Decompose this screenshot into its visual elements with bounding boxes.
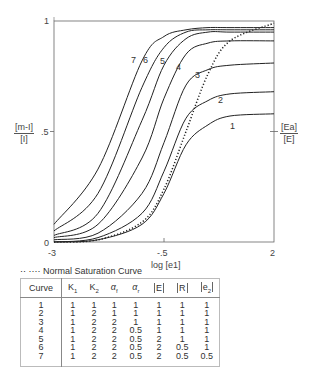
x-axis-label: log [e1] — [151, 260, 181, 270]
table-row: 71220.520.50.5 — [21, 352, 220, 367]
y-left-numerator: [m-I] — [14, 122, 34, 134]
x-tick-mid: -.5 — [157, 248, 168, 258]
curve-label: 7 — [131, 55, 136, 65]
table-cell: 0.5 — [195, 352, 220, 367]
table-cell: 0.5 — [124, 352, 149, 367]
curve-2 — [54, 92, 274, 242]
y-tick-1: 1 — [44, 16, 49, 26]
table-row: 31221111 — [21, 318, 220, 327]
y-axis-label-right: [Ea] [E] — [280, 122, 298, 145]
col-alpha-r: αr — [124, 279, 149, 298]
legend: ·· ···· Normal Saturation Curve — [20, 266, 142, 276]
plot-frame — [50, 17, 278, 242]
tick-labels: 1 .5 0 -3 -.5 2 log [e1] — [41, 16, 275, 270]
x-tick-right: 2 — [270, 248, 275, 258]
curve-label: 4 — [176, 62, 181, 72]
y-left-denominator: [I] — [20, 134, 28, 144]
table-cell: 2 — [148, 352, 170, 367]
table-row: 51220.5211 — [21, 335, 220, 344]
legend-label: Normal Saturation Curve — [43, 266, 142, 276]
curve-label: 1 — [230, 121, 235, 131]
x-tick-left: -3 — [48, 248, 56, 258]
y-right-denominator: [E] — [284, 134, 295, 144]
col-R: R — [170, 279, 195, 298]
table-cell: 2 — [105, 352, 124, 367]
curve-1 — [54, 114, 274, 242]
saturation-chart: 1234567 1 .5 0 -3 -.5 2 log [e1] — [0, 0, 314, 270]
curve-label: 5 — [160, 56, 165, 66]
table-body: 11111111212111113122111141220.511151220.… — [21, 297, 220, 367]
table-cell: 0.5 — [170, 352, 195, 367]
table-cell: 2 — [83, 352, 104, 367]
table-header-row: Curve K1 K2 αf αr E R e2 — [21, 279, 220, 298]
dotted-line-icon: ·· ···· — [20, 266, 40, 276]
table-cell: 7 — [21, 352, 62, 367]
col-E: E — [148, 279, 170, 298]
y-tick-05: .5 — [41, 127, 49, 137]
col-k1: K1 — [62, 279, 84, 298]
curve-label: 3 — [195, 70, 200, 80]
table-row: 11111111 — [21, 297, 220, 309]
col-e2: e2 — [195, 279, 220, 298]
parameter-table: Curve K1 K2 αf αr E R e2 111111112121111… — [20, 278, 220, 367]
col-curve: Curve — [21, 279, 62, 298]
curve-3 — [54, 63, 274, 240]
table-cell: 1 — [62, 352, 84, 367]
y-tick-0: 0 — [44, 238, 49, 248]
y-right-numerator: [Ea] — [280, 122, 298, 134]
col-k2: K2 — [83, 279, 104, 298]
curve-label: 2 — [218, 95, 223, 105]
table-row: 21211111 — [21, 309, 220, 318]
col-alpha-f: αf — [105, 279, 124, 298]
table-row: 41220.5111 — [21, 326, 220, 335]
table-row: 61220.520.51 — [21, 343, 220, 352]
curve-label: 6 — [143, 55, 148, 65]
y-axis-label-left: [m-I] [I] — [14, 122, 34, 145]
